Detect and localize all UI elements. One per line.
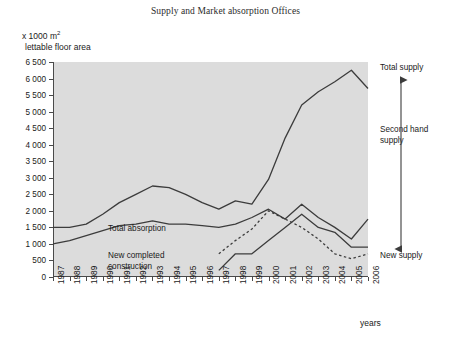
x-axis-title: years	[360, 318, 381, 328]
chart-root: Supply and Market absorption Offices x 1…	[0, 0, 451, 339]
second-hand-supply-arrow	[0, 0, 451, 339]
